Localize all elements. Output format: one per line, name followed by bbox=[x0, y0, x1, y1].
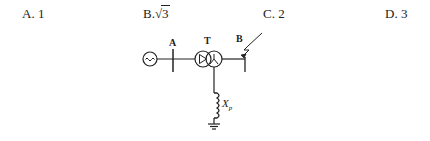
fault-lightning-icon bbox=[241, 33, 262, 58]
transformer-icon bbox=[195, 51, 222, 67]
reactor-coil-icon bbox=[214, 93, 219, 118]
reactor-label: Xp bbox=[221, 97, 233, 112]
circuit-diagram: A T B Xp bbox=[0, 0, 430, 141]
transformer-label: T bbox=[204, 35, 211, 46]
generator-icon bbox=[143, 52, 157, 66]
reactor-label-sub: p bbox=[228, 104, 233, 112]
bus-b-label: B bbox=[236, 33, 243, 44]
bus-a-label: A bbox=[169, 37, 177, 48]
ground-icon bbox=[208, 124, 220, 129]
